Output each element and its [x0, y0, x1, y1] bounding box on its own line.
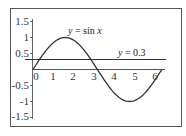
x-tick-1: 1 [50, 70, 56, 82]
y-tick-neg-0.5: -0.5 [12, 79, 30, 91]
x-tick-3: 3 [91, 70, 97, 82]
x-tick-6: 6 [152, 70, 158, 82]
y-tick-1.5: 1.5 [15, 15, 29, 27]
x-tick-2: 2 [70, 70, 76, 82]
y-tick-neg-1.5: -1.5 [12, 110, 30, 122]
x-tick-5: 5 [132, 70, 138, 82]
label-sin-x: y = sin x [67, 25, 102, 36]
y-tick-0.5: 0.5 [15, 47, 29, 59]
y-tick-neg-1: -1 [20, 95, 29, 107]
label-y-0.3: y = 0.3 [117, 47, 146, 58]
x-tick-4: 4 [111, 70, 117, 82]
y-tick-1: 1 [24, 31, 30, 43]
x-tick-0: 0 [33, 70, 39, 82]
sine-chart: 1.5 1 0.5 -0.5 -1 -1.5 0 1 2 3 4 5 6 y =… [0, 0, 186, 136]
